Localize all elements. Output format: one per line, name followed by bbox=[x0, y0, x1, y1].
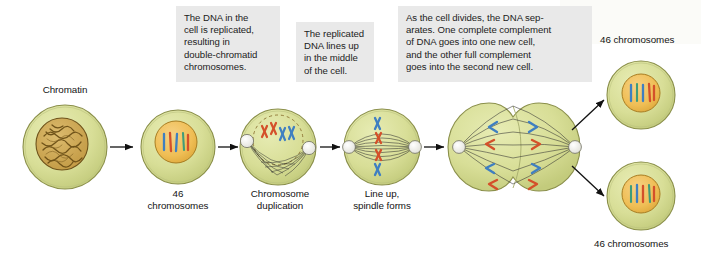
nucleus bbox=[155, 121, 197, 163]
chromatin-nucleus bbox=[36, 118, 88, 170]
spindle-pole-right bbox=[569, 141, 582, 154]
spindle-pole-right bbox=[409, 141, 422, 154]
label-chromosome-duplication: Chromosome duplication bbox=[228, 188, 332, 213]
caption-lineup: The replicated DNA lines up in the middl… bbox=[296, 22, 374, 82]
stage-46-chromosomes bbox=[141, 110, 215, 184]
stage-chromatin bbox=[23, 105, 107, 189]
stage-chromosome-duplication bbox=[240, 109, 316, 185]
dividing-cell-membrane bbox=[448, 103, 580, 191]
label-chromatin: Chromatin bbox=[10, 84, 120, 96]
label-daughter-top: 46 chromosomes bbox=[600, 34, 696, 46]
spindle-pole-left bbox=[453, 141, 466, 154]
label-46-chromosomes: 46 chromosomes bbox=[128, 188, 228, 213]
stage-line-up-spindle-forms bbox=[343, 109, 422, 185]
arrow-to-daughter-bottom bbox=[572, 166, 604, 196]
stage-cell-divides bbox=[448, 103, 581, 191]
caption-separation: As the cell divides, the DNA sep- arates… bbox=[398, 6, 592, 82]
spindle-pole-left bbox=[343, 141, 356, 154]
label-line-up-spindle-forms: Line up, spindle forms bbox=[332, 188, 432, 213]
centrosome-right bbox=[302, 141, 315, 154]
arrow-to-daughter-top bbox=[572, 100, 604, 130]
stage-daughter-cell-top bbox=[607, 61, 675, 129]
caption-replication: The DNA in the cell is replicated, resul… bbox=[176, 6, 280, 82]
stage-daughter-cell-bottom bbox=[607, 162, 675, 230]
centrosome-left bbox=[240, 134, 253, 147]
label-daughter-bottom: 46 chromosomes bbox=[594, 238, 698, 250]
